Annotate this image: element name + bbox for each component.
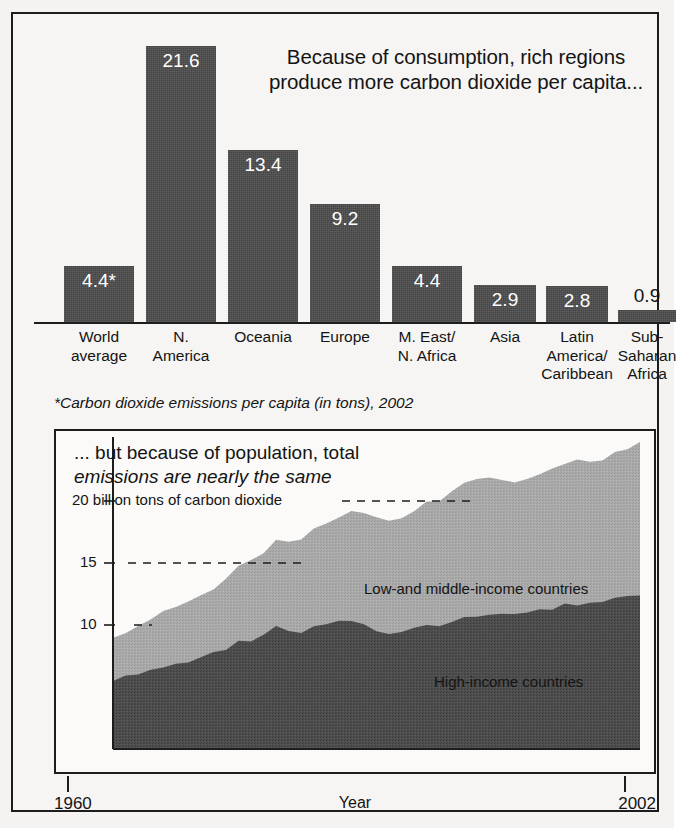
bar-value-label-7: 2.8 — [546, 290, 608, 312]
bar-chart-plot-area: 4.4*21.613.49.24.42.92.80.9 — [34, 34, 670, 322]
bar-4: 9.2 — [310, 204, 380, 322]
bar-1: 4.4* — [64, 266, 134, 322]
x-tick-2002 — [624, 776, 626, 792]
bar-category-label-8: Sub-SaharanAfrica — [606, 328, 680, 384]
bar-value-label-4: 9.2 — [310, 208, 380, 230]
bar-value-label-6: 2.9 — [474, 289, 536, 311]
y-axis-tick-label-15: 15 — [80, 553, 97, 570]
bar-value-label-5: 4.4 — [392, 270, 462, 292]
bar-category-label-8-line-3: Africa — [606, 365, 680, 384]
bar-category-label-3-line-1: Oceania — [216, 328, 310, 347]
bar-category-label-5-line-2: N. Africa — [380, 347, 474, 366]
bar-6: 2.9 — [474, 285, 536, 322]
area-chart-panel: ... but because of population, total emi… — [54, 429, 656, 774]
legend-label-low-middle-income: Low-and middle-income countries — [364, 580, 588, 597]
bar-category-label-4-line-1: Europe — [298, 328, 392, 347]
bar-category-label-5-line-1: M. East/ — [380, 328, 474, 347]
area-chart-title-line1: ... but because of population, total — [74, 441, 359, 465]
area-chart-x-axis: 1960 2002 Year — [54, 776, 656, 822]
area-chart-title: ... but because of population, total emi… — [74, 441, 359, 489]
x-axis-title: Year — [54, 794, 656, 812]
legend-label-high-income: High-income countries — [434, 673, 583, 690]
y-axis-tick-label-10: 10 — [80, 615, 97, 632]
y-axis-tick-label-20: 20 billion tons of carbon dioxide — [72, 491, 282, 508]
bar-8: 0.9 — [618, 310, 676, 322]
bar-value-label-2: 21.6 — [146, 50, 216, 72]
bar-5: 4.4 — [392, 266, 462, 322]
bar-category-label-1-line-2: average — [52, 347, 146, 366]
bar-category-label-5: M. East/N. Africa — [380, 328, 474, 365]
bar-category-label-2: N.America — [134, 328, 228, 365]
bar-7: 2.8 — [546, 286, 608, 322]
bar-3: 13.4 — [228, 150, 298, 322]
bar-category-label-4: Europe — [298, 328, 392, 347]
bar-category-label-8-line-2: Saharan — [606, 347, 680, 366]
bar-category-label-2-line-2: America — [134, 347, 228, 366]
bar-value-label-8: 0.9 — [618, 285, 676, 307]
outer-frame: Because of consumption, rich regions pro… — [11, 12, 659, 812]
x-tick-1960 — [67, 776, 69, 792]
bar-value-label-1: 4.4* — [64, 270, 134, 292]
bar-category-label-8-line-1: Sub- — [606, 328, 680, 347]
bar-chart-panel: Because of consumption, rich regions pro… — [26, 28, 672, 414]
bar-2: 21.6 — [146, 46, 216, 322]
bar-category-label-1-line-1: World — [52, 328, 146, 347]
bar-category-label-3: Oceania — [216, 328, 310, 347]
bar-chart-baseline — [34, 322, 670, 324]
bar-category-label-2-line-1: N. — [134, 328, 228, 347]
area-chart-title-line2: emissions are nearly the same — [74, 465, 359, 489]
bar-value-label-3: 13.4 — [228, 154, 298, 176]
bar-category-label-1: Worldaverage — [52, 328, 146, 365]
bar-chart-footnote: *Carbon dioxide emissions per capita (in… — [54, 394, 413, 412]
